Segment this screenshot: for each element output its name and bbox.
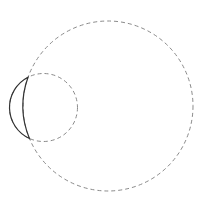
solid-lune-crescent bbox=[10, 77, 30, 138]
lune-diagram bbox=[0, 0, 203, 204]
large-dashed-circle bbox=[23, 21, 193, 191]
